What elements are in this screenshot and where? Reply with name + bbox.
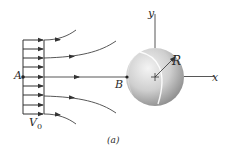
point-a-label: A xyxy=(14,70,22,81)
point-b-marker xyxy=(125,75,128,78)
streamlines xyxy=(44,30,128,124)
velocity-symbol: V xyxy=(29,116,37,129)
y-axis-label: y xyxy=(148,8,154,19)
velocity-subscript: 0 xyxy=(37,122,42,131)
point-b-label: B xyxy=(115,79,123,90)
figure-caption: (a) xyxy=(107,136,119,145)
radius-label: R xyxy=(172,55,181,67)
velocity-label: V0 xyxy=(29,117,42,131)
velocity-profile xyxy=(23,40,44,114)
x-axis-label: x xyxy=(212,72,218,83)
